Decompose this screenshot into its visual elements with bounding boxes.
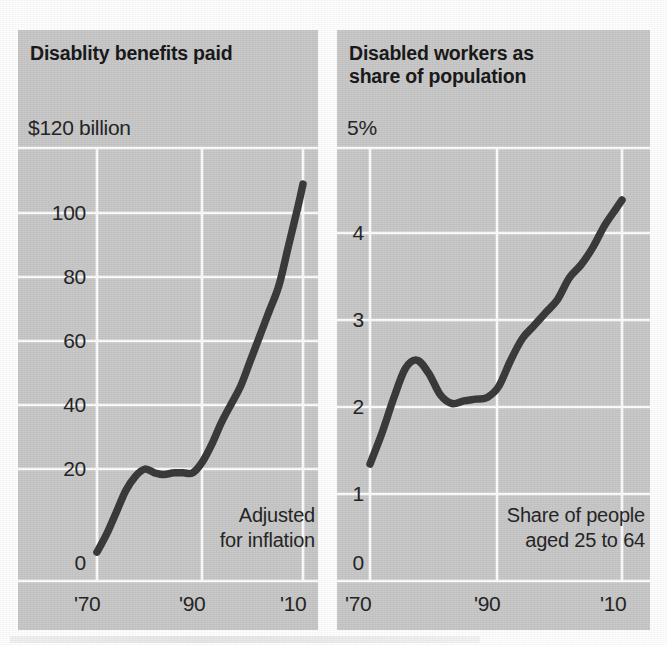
y-tick-left-60: 60 bbox=[20, 329, 86, 353]
x-tick-left-70: '70 bbox=[74, 592, 100, 616]
y-tick-left-40: 40 bbox=[20, 393, 86, 417]
y-tick-right-3: 3 bbox=[340, 308, 364, 332]
panel-title-right: Disabled workers as share of population bbox=[349, 42, 649, 88]
x-tick-right-70: '70 bbox=[345, 592, 371, 616]
y-tick-right-2: 2 bbox=[340, 395, 364, 419]
clipped-caption-strip bbox=[10, 636, 480, 643]
x-tick-left-90: '90 bbox=[179, 592, 205, 616]
y-tick-right-0: 0 bbox=[340, 551, 364, 575]
y-tick-left-0: 0 bbox=[20, 551, 86, 575]
y-axis-top-label-right: 5% bbox=[347, 116, 377, 140]
y-tick-left-80: 80 bbox=[20, 265, 86, 289]
y-tick-left-100: 100 bbox=[20, 201, 86, 225]
panel-title-left: Disablity benefits paid bbox=[30, 42, 320, 65]
x-tick-right-90: '90 bbox=[474, 592, 500, 616]
figure-container: Disablity benefits paid $120 billion 100… bbox=[0, 0, 667, 645]
y-tick-right-4: 4 bbox=[340, 221, 364, 245]
panel-note-left: Adjusted for inflation bbox=[135, 503, 315, 553]
y-tick-left-20: 20 bbox=[20, 457, 86, 481]
x-tick-left-10: '10 bbox=[280, 592, 306, 616]
y-tick-right-1: 1 bbox=[340, 482, 364, 506]
x-tick-right-10: '10 bbox=[600, 592, 626, 616]
y-axis-top-label-left: $120 billion bbox=[28, 116, 131, 140]
panel-note-right: Share of people aged 25 to 64 bbox=[435, 503, 645, 553]
